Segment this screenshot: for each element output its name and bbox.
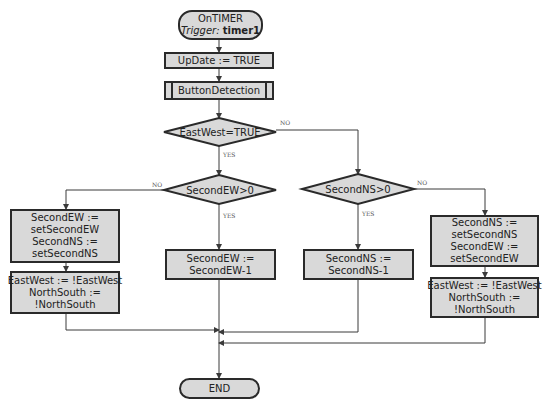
- end-label: END: [209, 383, 231, 395]
- process-line: EastWest := !EastWest: [8, 275, 122, 287]
- edge-toggle-left-merge: [66, 314, 219, 330]
- connector-layer: [0, 0, 551, 410]
- edge-second-ew-no: [66, 190, 164, 209]
- process-dec-ns[interactable]: SecondNS := SecondNS-1: [303, 249, 414, 280]
- process-line: SecondEW :=: [451, 241, 519, 253]
- second-ew-yes-label: YES: [223, 212, 235, 219]
- edge-toggle-right-merge: [219, 318, 485, 343]
- process-line: SecondNS :=: [326, 253, 392, 265]
- process-line: !NorthSouth: [454, 304, 515, 316]
- process-line: SecondEW :=: [31, 212, 99, 224]
- process-line: SecondNS :=: [452, 217, 518, 229]
- process-line: setSecondNS: [452, 229, 518, 241]
- eastwest-yes-label: YES: [223, 151, 235, 158]
- process-line: SecondEW-1: [189, 265, 252, 277]
- subprocess-label: ButtonDetection: [178, 85, 260, 97]
- process-reset-ns[interactable]: SecondNS := setSecondNS SecondEW := setS…: [430, 215, 539, 267]
- process-reset-ew[interactable]: SecondEW := setSecondEW SecondNS := setS…: [10, 209, 120, 263]
- start-terminal[interactable]: OnTIMER Trigger: timer1: [178, 10, 263, 40]
- process-line: SecondNS :=: [32, 236, 98, 248]
- process-line: setSecondEW: [31, 224, 99, 236]
- decision-second-ns[interactable]: SecondNS>0: [325, 184, 390, 195]
- edge-eastwest-no: [276, 130, 358, 174]
- process-toggle-left[interactable]: EastWest := !EastWest NorthSouth := !Nor…: [10, 271, 120, 314]
- decision-eastwest[interactable]: EastWest=TRUE: [179, 127, 260, 138]
- decision-label: EastWest=TRUE: [179, 127, 260, 138]
- decision-label: SecondEW>0: [186, 185, 254, 196]
- process-line: setSecondNS: [32, 248, 98, 260]
- process-line: EastWest := !EastWest: [427, 280, 541, 292]
- end-terminal[interactable]: END: [179, 378, 260, 399]
- process-line: UpDate := TRUE: [178, 55, 260, 67]
- process-line: NorthSouth :=: [449, 292, 521, 304]
- process-line: SecondNS-1: [328, 265, 389, 277]
- start-title: OnTIMER: [198, 13, 243, 25]
- edge-dec-ns-merge: [219, 280, 358, 332]
- process-toggle-right[interactable]: EastWest := !EastWest NorthSouth := !Nor…: [430, 277, 539, 318]
- subprocess-button-detection[interactable]: ButtonDetection: [164, 81, 274, 100]
- second-ns-yes-label: YES: [362, 210, 374, 217]
- decision-second-ew[interactable]: SecondEW>0: [186, 185, 254, 196]
- process-line: setSecondEW: [450, 253, 518, 265]
- process-update[interactable]: UpDate := TRUE: [164, 52, 274, 69]
- process-line: NorthSouth :=: [29, 287, 101, 299]
- trigger-value: timer1: [223, 25, 260, 36]
- decision-label: SecondNS>0: [325, 184, 390, 195]
- trigger-label: Trigger:: [181, 25, 220, 36]
- process-line: !NorthSouth: [34, 299, 95, 311]
- process-line: SecondEW :=: [187, 253, 255, 265]
- eastwest-no-label: NO: [280, 119, 290, 126]
- edge-second-ns-no: [414, 189, 485, 215]
- second-ns-no-label: NO: [417, 179, 427, 186]
- second-ew-no-label: NO: [152, 181, 162, 188]
- process-dec-ew[interactable]: SecondEW := SecondEW-1: [165, 249, 276, 280]
- start-trigger: Trigger: timer1: [181, 25, 260, 37]
